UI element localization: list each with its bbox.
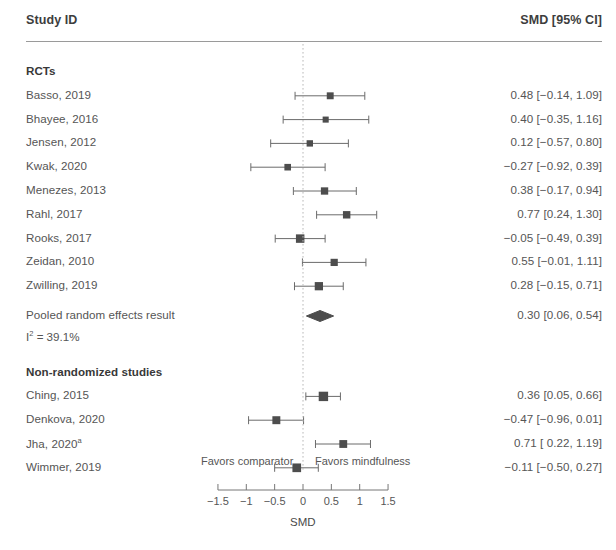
study-label: Rooks, 2017 [26,231,92,244]
study-label: Basso, 2019 [26,88,91,101]
study-label: Rahl, 2017 [26,207,83,220]
pooled-result-value: 0.30 [0.06, 0.54] [517,308,602,321]
study-label: Jensen, 2012 [26,135,96,148]
forest-row-marker [294,282,343,290]
study-label: Ching, 2015 [26,388,89,401]
forest-row-marker [315,440,370,448]
forest-row-marker [251,163,325,171]
x-axis-tick-label: 1.5 [380,495,395,507]
forest-row-marker [249,416,304,424]
study-effect-value: 0.28 [−0.15, 0.71] [511,278,602,291]
study-effect-value: −0.11 [−0.50, 0.27] [505,460,602,473]
study-label: Menezes, 2013 [26,183,106,196]
study-effect-value: 0.71 [ 0.22, 1.19] [514,436,602,449]
group-header-non-randomized-studies: Non-randomized studies [26,365,162,378]
study-label: Denkova, 2020 [26,412,105,425]
forest-row-marker [275,234,325,242]
x-axis-tick-label: 0.5 [324,495,339,507]
study-effect-value: −0.27 [−0.92, 0.39] [504,159,602,172]
study-label: Zwilling, 2019 [26,278,98,291]
study-effect-value: 0.55 [−0.01, 1.11] [511,254,602,267]
forest-row-marker [295,92,365,100]
forest-row-marker [302,258,366,266]
study-effect-value: −0.47 [−0.96, 0.01] [504,412,602,425]
forest-row-marker [317,211,377,219]
x-axis-tick-label: 0 [300,495,306,507]
study-effect-value: 0.12 [−0.57, 0.80] [511,135,602,148]
study-label: Kwak, 2020 [26,159,87,172]
heterogeneity-label: I2 = 39.1% [26,329,80,343]
study-label: Zeidan, 2010 [26,254,94,267]
favors-mindfulness-caption: Favors mindfulness [315,455,410,467]
favors-comparator-caption: Favors comparator [201,455,293,467]
forest-row-marker [306,392,341,401]
x-axis-tick-label: −1.5 [207,495,229,507]
forest-row-marker [271,139,349,147]
x-axis-tick-label: −0.5 [264,495,286,507]
x-axis-tick-label: 1 [357,495,363,507]
study-effect-value: 0.40 [−0.35, 1.16] [511,112,602,125]
study-label: Wimmer, 2019 [26,460,101,473]
pooled-result-label: Pooled random effects result [26,308,175,321]
study-effect-value: 0.36 [0.05, 0.66] [517,388,602,401]
study-effect-value: −0.05 [−0.49, 0.39] [504,231,602,244]
forest-row-marker [283,116,369,124]
x-axis-title: SMD [290,516,316,528]
study-effect-value: 0.77 [0.24, 1.30] [517,207,602,220]
study-effect-value: 0.48 [−0.14, 1.09] [511,88,602,101]
pooled-diamond [306,311,333,322]
study-label: Bhayee, 2016 [26,112,98,125]
study-label: Jha, 2020a [26,436,82,450]
group-header-rcts: RCTs [26,64,56,77]
x-axis-tick-label: −1 [240,495,253,507]
study-effect-value: 0.38 [−0.17, 0.94] [511,183,602,196]
